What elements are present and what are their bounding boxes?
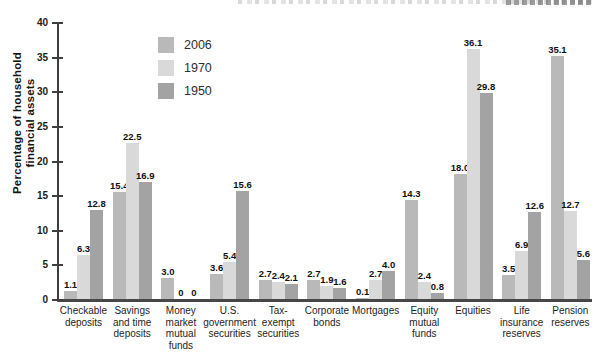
bar-slot-1950: 12.6 — [528, 22, 541, 299]
bar-1970: 6.9 — [515, 251, 528, 299]
bar-2006: 18.0 — [454, 174, 467, 299]
legend-swatch-1950 — [158, 83, 174, 99]
bar-1950: 1.6 — [333, 288, 346, 299]
bar-slot-1970: 1.9 — [320, 22, 333, 299]
bar-slot-1970: 5.4 — [223, 22, 236, 299]
bar-2006: 14.3 — [405, 200, 418, 299]
bar-group: 0.12.74.0Mortgages — [356, 22, 395, 299]
bar-slot-1950: 5.6 — [577, 22, 590, 299]
bar-group: 1.16.312.8Checkabledeposits — [64, 22, 103, 299]
bar-slot-1950: 0.8 — [431, 22, 444, 299]
bar-slot-1970: 6.3 — [77, 22, 90, 299]
value-label: 36.1 — [464, 37, 483, 48]
bar-1970: 1.9 — [320, 286, 333, 299]
bar-1970: 6.3 — [77, 255, 90, 299]
bar-1950: 5.6 — [577, 260, 590, 299]
value-label: 14.3 — [402, 188, 421, 199]
value-label: 35.1 — [548, 44, 567, 55]
value-label: 5.6 — [577, 248, 590, 259]
y-tick-label: 40 — [18, 17, 48, 28]
bar-2006: 35.1 — [551, 56, 564, 299]
y-tick-label: 25 — [18, 121, 48, 132]
legend-row-1970: 1970 — [158, 60, 212, 76]
legend-label: 1970 — [184, 61, 212, 75]
value-label: 3.5 — [502, 263, 515, 274]
y-tick-label: 10 — [18, 225, 48, 236]
legend-swatch-2006 — [158, 37, 174, 53]
bar-slot-1970: 12.7 — [564, 22, 577, 299]
bar-1970: 2.4 — [418, 282, 431, 299]
legend: 200619701950 — [158, 37, 212, 106]
value-label: 3.6 — [210, 262, 223, 273]
bar-1950: 0.8 — [431, 293, 444, 299]
bar-group: 3.56.912.6Lifeinsurancereserves — [502, 22, 541, 299]
legend-label: 2006 — [184, 38, 212, 52]
bar-slot-1950: 29.8 — [480, 22, 493, 299]
value-label: 1.6 — [333, 276, 346, 287]
bar-2006: 2.7 — [259, 280, 272, 299]
bar-1950: 2.1 — [285, 284, 298, 299]
x-axis-line — [57, 299, 592, 302]
bar-slot-1950: 12.8 — [90, 22, 103, 299]
bar-1950: 29.8 — [480, 93, 493, 299]
y-tick-label: 0 — [18, 294, 48, 305]
y-tick-label: 5 — [18, 259, 48, 270]
bar-1970: 2.4 — [272, 282, 285, 299]
bar-slot-2006: 3.6 — [210, 22, 223, 299]
bar-slot-1970: 22.5 — [126, 22, 139, 299]
bar-group: 15.422.516.9Savingsand timedeposits — [113, 22, 152, 299]
bar-slot-1970: 36.1 — [467, 22, 480, 299]
bar-2006: 2.7 — [307, 280, 320, 299]
y-tick-mark — [52, 161, 63, 163]
bar-slot-2006: 35.1 — [551, 22, 564, 299]
bar-slot-2006: 2.7 — [259, 22, 272, 299]
bar-2006: 1.1 — [64, 291, 77, 299]
bar-slot-1970: 6.9 — [515, 22, 528, 299]
y-tick-label: 35 — [18, 52, 48, 63]
value-label: 5.4 — [223, 250, 236, 261]
bar-group: 35.112.75.6Pensionreserves — [551, 22, 590, 299]
figure-bar-chart-household-financial-assets: Percentage of household financial assets… — [0, 0, 606, 362]
bar-1950: 12.8 — [90, 210, 103, 299]
y-tick-label: 30 — [18, 86, 48, 97]
y-tick-mark — [52, 91, 63, 93]
value-label: 6.9 — [515, 239, 528, 250]
bar-slot-2006: 18.0 — [454, 22, 467, 299]
value-label: 2.7 — [259, 268, 272, 279]
value-label: 1.1 — [64, 279, 77, 290]
y-tick-label: 20 — [18, 156, 48, 167]
bar-1970: 12.7 — [564, 211, 577, 299]
value-label: 29.8 — [477, 81, 496, 92]
bar-1970: 22.5 — [126, 143, 139, 299]
value-label: 12.6 — [525, 200, 544, 211]
plot-area: 1.16.312.8Checkabledeposits15.422.516.9S… — [64, 22, 590, 299]
bar-1970: 2.7 — [369, 280, 382, 299]
value-label: 2.7 — [369, 268, 382, 279]
bar-slot-2006: 3.5 — [502, 22, 515, 299]
bar-2006: 3.0 — [161, 278, 174, 299]
value-label: 22.5 — [123, 131, 142, 142]
bar-1950: 16.9 — [139, 182, 152, 299]
bar-slot-1950: 4.0 — [382, 22, 395, 299]
value-label: 4.0 — [382, 259, 395, 270]
y-tick-label: 15 — [18, 190, 48, 201]
bar-slot-2006: 14.3 — [405, 22, 418, 299]
legend-row-2006: 2006 — [158, 37, 212, 53]
bar-group: 3.65.415.6U.S.governmentsecurities — [210, 22, 249, 299]
value-label: 1.9 — [320, 274, 333, 285]
bar-2006: 0.1 — [356, 298, 369, 299]
value-label: 12.8 — [87, 198, 106, 209]
y-tick-mark — [52, 22, 63, 24]
legend-row-1950: 1950 — [158, 83, 212, 99]
bar-slot-1970: 2.7 — [369, 22, 382, 299]
bar-1970: 5.4 — [223, 262, 236, 299]
value-label: 0.1 — [356, 286, 369, 297]
value-label: 12.7 — [561, 199, 580, 210]
value-label: 2.4 — [418, 270, 431, 281]
bar-1950: 15.6 — [236, 191, 249, 299]
bar-1950: 12.6 — [528, 212, 541, 299]
bar-1950: 4.0 — [382, 271, 395, 299]
value-label: 2.7 — [307, 268, 320, 279]
bar-2006: 3.5 — [502, 275, 515, 299]
legend-label: 1950 — [184, 84, 212, 98]
